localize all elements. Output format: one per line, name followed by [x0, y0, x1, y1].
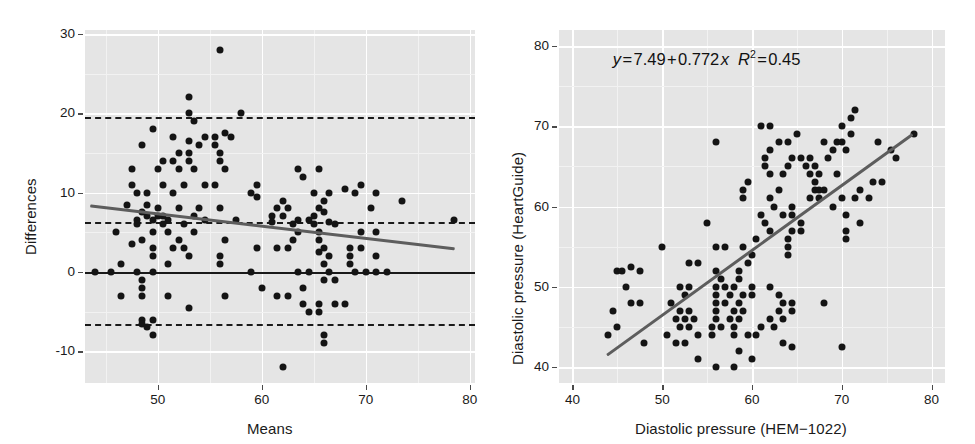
x-tick-mark — [842, 385, 843, 390]
data-point — [118, 292, 125, 299]
data-point — [139, 284, 146, 291]
data-point — [217, 46, 224, 53]
data-point — [775, 291, 782, 298]
data-point — [789, 307, 796, 314]
data-point — [771, 323, 778, 330]
data-point — [201, 134, 208, 141]
data-point — [175, 237, 182, 244]
data-point — [789, 155, 796, 162]
data-point — [253, 193, 260, 200]
data-point — [789, 343, 796, 350]
data-point — [123, 201, 130, 208]
data-point — [326, 268, 333, 275]
data-point — [170, 189, 177, 196]
gridline — [559, 166, 945, 167]
data-point — [677, 307, 684, 314]
data-point — [186, 253, 193, 260]
data-point — [279, 213, 286, 220]
data-point — [740, 195, 747, 202]
data-point — [749, 283, 756, 290]
data-point — [713, 315, 720, 322]
data-point — [212, 181, 219, 188]
data-point — [713, 299, 720, 306]
y-tick-label: 0 — [39, 264, 75, 279]
y-tick-label: 10 — [39, 185, 75, 200]
data-point — [784, 139, 791, 146]
x-tick-label: 60 — [740, 392, 764, 407]
data-point — [731, 323, 738, 330]
data-point — [856, 187, 863, 194]
y-tick-mark — [552, 126, 557, 127]
data-point — [149, 245, 156, 252]
data-point — [829, 147, 836, 154]
x-tick-mark — [470, 385, 471, 390]
data-point — [744, 179, 751, 186]
data-point — [284, 245, 291, 252]
data-point — [180, 245, 187, 252]
data-point — [321, 261, 328, 268]
data-point — [793, 131, 800, 138]
data-point — [784, 251, 791, 258]
data-point — [92, 268, 99, 275]
data-point — [798, 219, 805, 226]
data-point — [128, 181, 135, 188]
data-point — [160, 157, 167, 164]
data-point — [856, 219, 863, 226]
x-tick-label: 40 — [560, 392, 584, 407]
data-point — [834, 171, 841, 178]
y-tick-mark — [78, 272, 83, 273]
data-point — [636, 267, 643, 274]
data-point — [722, 243, 729, 250]
y-tick-label: 30 — [39, 26, 75, 41]
data-point — [295, 268, 302, 275]
data-point — [672, 315, 679, 322]
data-point — [222, 237, 229, 244]
data-point — [843, 211, 850, 218]
y-tick-label: 20 — [39, 105, 75, 120]
data-point — [735, 347, 742, 354]
data-point — [134, 221, 141, 228]
data-point — [766, 195, 773, 202]
data-point — [191, 229, 198, 236]
data-point — [347, 261, 354, 268]
data-point — [811, 163, 818, 170]
y-tick-mark — [78, 351, 83, 352]
data-point — [753, 331, 760, 338]
data-point — [191, 165, 198, 172]
data-point — [762, 155, 769, 162]
data-point — [149, 126, 156, 133]
y-tick-mark — [552, 287, 557, 288]
data-point — [160, 221, 167, 228]
data-point — [222, 165, 229, 172]
data-point — [766, 283, 773, 290]
data-point — [149, 229, 156, 236]
data-point — [672, 339, 679, 346]
data-point — [641, 339, 648, 346]
data-point — [316, 300, 323, 307]
data-point — [170, 157, 177, 164]
data-point — [686, 307, 693, 314]
data-point — [279, 197, 286, 204]
regression-trend — [90, 205, 454, 251]
data-point — [695, 331, 702, 338]
data-point — [113, 229, 120, 236]
data-point — [274, 292, 281, 299]
data-point — [757, 323, 764, 330]
data-point — [663, 331, 670, 338]
data-point — [820, 299, 827, 306]
data-point — [347, 245, 354, 252]
data-point — [713, 363, 720, 370]
data-point — [807, 195, 814, 202]
y-tick-label: 80 — [513, 38, 549, 53]
data-point — [316, 249, 323, 256]
left-plot-area — [85, 30, 475, 383]
data-point — [165, 229, 172, 236]
bias-line — [85, 222, 475, 224]
data-point — [838, 139, 845, 146]
data-point — [713, 291, 720, 298]
data-point — [331, 276, 338, 283]
y-tick-label: 70 — [513, 118, 549, 133]
data-point — [368, 205, 375, 212]
data-point — [186, 110, 193, 117]
data-point — [352, 268, 359, 275]
